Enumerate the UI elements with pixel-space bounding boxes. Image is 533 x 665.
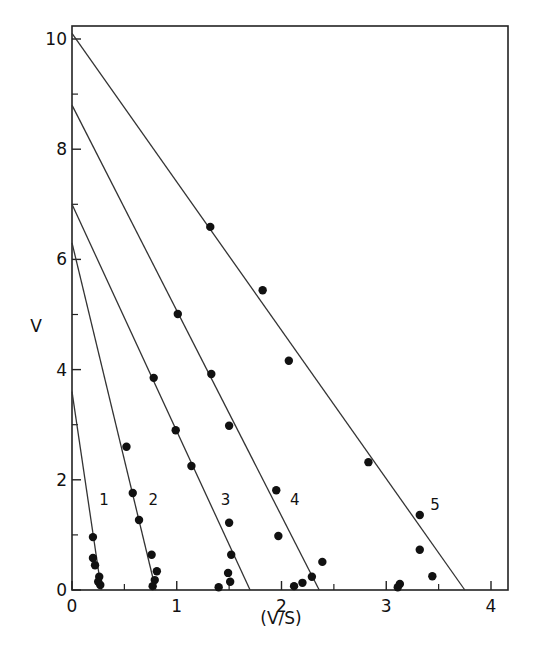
data-point (214, 583, 222, 591)
data-points (89, 223, 437, 592)
data-point (225, 519, 233, 527)
data-point (298, 579, 306, 587)
data-point (153, 567, 161, 575)
x-tick-label: 3 (381, 596, 392, 616)
data-point (150, 374, 158, 382)
data-point (224, 569, 232, 577)
data-point (207, 370, 215, 378)
scatter-chart: 012340246810 12345 (V/S) V (0, 0, 533, 665)
x-tick-label: 4 (486, 596, 497, 616)
data-point (274, 532, 282, 540)
series-labels: 12345 (99, 491, 440, 515)
fit-lines (72, 33, 465, 590)
data-point (91, 561, 99, 569)
data-point (148, 582, 156, 590)
data-point (89, 554, 97, 562)
axis-tick-labels: 012340246810 (45, 29, 496, 616)
data-point (428, 572, 436, 580)
y-tick-label: 4 (56, 360, 67, 380)
data-point (394, 583, 402, 591)
data-point (147, 551, 155, 559)
data-point (364, 458, 372, 466)
data-point (135, 516, 143, 524)
data-point (206, 223, 214, 231)
y-tick-label: 6 (56, 249, 67, 269)
y-tick-label: 8 (56, 139, 67, 159)
data-point (290, 582, 298, 590)
data-point (285, 357, 293, 365)
y-axis-title: V (30, 316, 42, 336)
data-point (308, 573, 316, 581)
data-point (225, 422, 233, 430)
series-label-1: 1 (99, 491, 109, 509)
data-point (226, 578, 234, 586)
x-axis-title: (V/S) (260, 608, 301, 628)
data-point (129, 489, 137, 497)
data-point (187, 462, 195, 470)
data-point (89, 533, 97, 541)
fit-line-1 (72, 392, 101, 590)
data-point (227, 551, 235, 559)
y-tick-label: 2 (56, 470, 67, 490)
x-tick-label: 1 (171, 596, 182, 616)
fit-line-3 (72, 204, 250, 590)
series-label-5: 5 (430, 496, 440, 514)
data-point (318, 558, 326, 566)
y-tick-label: 0 (56, 580, 67, 600)
series-label-3: 3 (221, 491, 231, 509)
data-point (416, 511, 424, 519)
series-label-2: 2 (148, 491, 158, 509)
data-point (122, 443, 130, 451)
y-tick-label: 10 (45, 29, 67, 49)
data-point (416, 546, 424, 554)
series-label-4: 4 (290, 491, 300, 509)
data-point (272, 486, 280, 494)
data-point (94, 578, 102, 586)
fit-line-5 (72, 33, 465, 590)
data-point (174, 310, 182, 318)
data-point (258, 286, 266, 294)
data-point (172, 426, 180, 434)
fit-line-4 (72, 105, 319, 590)
x-tick-label: 0 (67, 596, 78, 616)
